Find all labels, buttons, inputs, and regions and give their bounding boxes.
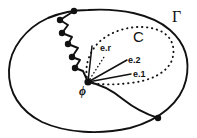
node-dot xyxy=(72,65,78,71)
figure-container: Γ C e.r e.2 e.1 ϕ xyxy=(0,0,197,138)
node-dot-group xyxy=(57,8,161,121)
label-e-2: e.2 xyxy=(128,56,141,65)
diagram-canvas xyxy=(0,0,197,138)
outer-boundary-curve xyxy=(9,10,188,132)
smooth-arc-to-boundary xyxy=(88,82,158,118)
node-dot xyxy=(65,41,71,47)
node-dot xyxy=(71,8,77,14)
node-dot xyxy=(69,54,75,60)
node-dot xyxy=(57,17,63,23)
label-e-r: e.r xyxy=(100,44,111,53)
node-dot xyxy=(59,30,65,36)
label-origin: ϕ xyxy=(79,85,86,97)
ray-er xyxy=(88,46,92,82)
label-e-1: e.1 xyxy=(133,70,146,79)
node-dot xyxy=(155,115,161,121)
label-gamma: Γ xyxy=(172,9,181,25)
label-c: C xyxy=(133,29,144,44)
zigzag-polygonal-path xyxy=(60,11,88,82)
